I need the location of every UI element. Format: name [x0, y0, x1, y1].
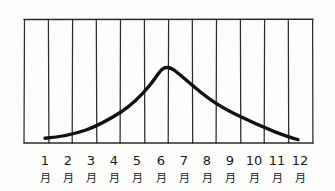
x-tick-label: 10 [246, 153, 263, 168]
x-tick-label: 11 [269, 153, 286, 168]
x-tick-label: 1 [41, 153, 49, 168]
x-unit-label: 月 [156, 172, 167, 185]
chart-container: 1 2 3 4 5 6 7 8 9 10 11 12 月 月 月 月 月 月 月… [0, 0, 335, 191]
x-axis-tick-labels: 1 2 3 4 5 6 7 8 9 10 11 12 [41, 153, 308, 168]
x-tick-label: 5 [133, 153, 141, 168]
x-unit-label: 月 [225, 172, 236, 185]
x-tick-label: 7 [180, 153, 188, 168]
x-unit-label: 月 [63, 172, 74, 185]
x-tick-label: 12 [292, 153, 309, 168]
x-unit-label: 月 [40, 172, 51, 185]
line-chart-figure: 1 2 3 4 5 6 7 8 9 10 11 12 月 月 月 月 月 月 月… [0, 0, 335, 191]
x-unit-label: 月 [249, 172, 260, 185]
x-unit-label: 月 [295, 172, 306, 185]
x-unit-label: 月 [202, 172, 213, 185]
x-tick-label: 3 [87, 153, 95, 168]
x-tick-label: 6 [157, 153, 165, 168]
x-tick-label: 9 [226, 153, 234, 168]
x-tick-label: 2 [64, 153, 72, 168]
x-unit-label: 月 [86, 172, 97, 185]
x-unit-label: 月 [109, 172, 120, 185]
x-tick-label: 4 [110, 153, 118, 168]
x-unit-label: 月 [272, 172, 283, 185]
x-tick-label: 8 [203, 153, 211, 168]
x-axis-unit-labels: 月 月 月 月 月 月 月 月 月 月 月 月 [40, 172, 306, 185]
gridline [24, 20, 25, 143]
x-unit-label: 月 [179, 172, 190, 185]
gridline [48, 19, 49, 143]
x-unit-label: 月 [132, 172, 143, 185]
